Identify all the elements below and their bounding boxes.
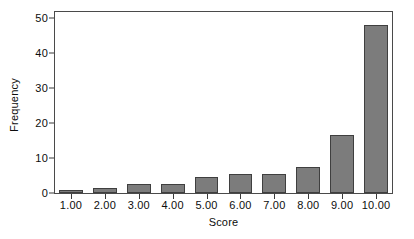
y-axis-tick-label: 50 (35, 12, 48, 24)
x-axis-tick-label: 1.00 (60, 199, 82, 211)
x-axis-tick-label: 3.00 (128, 199, 150, 211)
bars-container (54, 11, 393, 193)
bar (296, 167, 320, 193)
x-axis-tick-label: 7.00 (263, 199, 285, 211)
x-axis-tick-labels: 1.002.003.004.005.006.007.008.009.0010.0… (54, 199, 393, 215)
y-axis-tick-label: 10 (35, 152, 48, 164)
x-axis-tick-label: 9.00 (331, 199, 353, 211)
bar (229, 174, 253, 193)
bar (364, 25, 388, 193)
x-axis-tick-label: 5.00 (195, 199, 217, 211)
y-axis-title-label: Frequency (8, 78, 20, 132)
y-axis-tick-label: 30 (35, 82, 48, 94)
bar (330, 135, 354, 193)
histogram-chart: Frequency 01020304050 1.002.003.004.005.… (0, 0, 414, 239)
y-axis-tick-labels: 01020304050 (24, 0, 48, 239)
y-axis-tick-label: 40 (35, 47, 48, 59)
y-axis-tick-label: 0 (42, 187, 48, 199)
bar (127, 184, 151, 193)
x-axis-tick-label: 4.00 (162, 199, 184, 211)
bar (262, 174, 286, 193)
bar (93, 188, 117, 193)
bar (161, 184, 185, 193)
x-axis-tick-label: 2.00 (94, 199, 116, 211)
x-axis-title: Score (54, 216, 393, 228)
y-axis-title: Frequency (6, 16, 22, 194)
bar (59, 190, 83, 194)
x-axis-tick-label: 8.00 (297, 199, 319, 211)
x-axis-tick-label: 10.00 (362, 199, 391, 211)
x-axis-tick-label: 6.00 (229, 199, 251, 211)
bar (195, 177, 219, 193)
y-axis-tick-label: 20 (35, 117, 48, 129)
